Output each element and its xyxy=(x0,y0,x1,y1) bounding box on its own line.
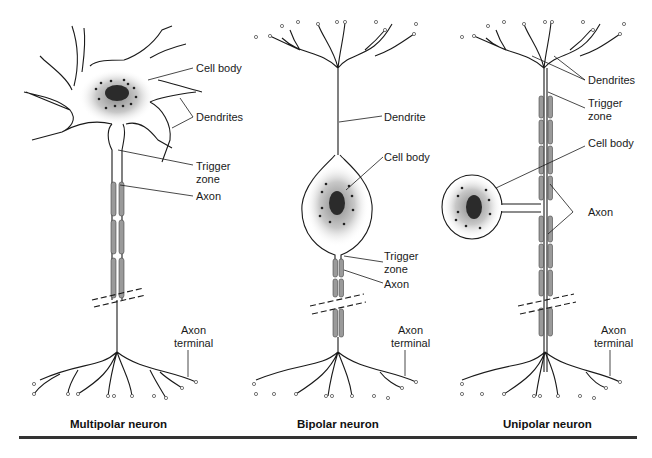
caption-unipolar-neuron: Unipolar neuron xyxy=(503,418,592,430)
label-multipolar-trigger-zone: Trigger zone xyxy=(196,160,230,186)
label-unipolar-dendrites: Dendrites xyxy=(588,74,635,87)
bottom-rule xyxy=(19,436,637,439)
label-unipolar-axon-terminal: Axon terminal xyxy=(594,324,633,350)
label-unipolar-trigger-zone: Trigger zone xyxy=(588,97,622,123)
label-multipolar-cell-body: Cell body xyxy=(196,62,242,75)
label-bipolar-axon-terminal: Axon terminal xyxy=(391,324,430,350)
label-multipolar-axon-terminal: Axon terminal xyxy=(174,324,213,350)
caption-bipolar-neuron: Bipolar neuron xyxy=(297,418,379,430)
label-bipolar-cell-body: Cell body xyxy=(384,151,430,164)
caption-multipolar-neuron: Multipolar neuron xyxy=(70,418,167,430)
label-bipolar-axon: Axon xyxy=(384,278,409,291)
label-bipolar-trigger-zone: Trigger zone xyxy=(384,250,418,276)
label-unipolar-cell-body: Cell body xyxy=(588,137,634,150)
label-unipolar-axon: Axon xyxy=(588,206,613,219)
label-bipolar-dendrite: Dendrite xyxy=(384,111,426,124)
neuron-diagram xyxy=(0,0,652,458)
label-multipolar-axon: Axon xyxy=(196,190,221,203)
label-multipolar-dendrites: Dendrites xyxy=(196,111,243,124)
